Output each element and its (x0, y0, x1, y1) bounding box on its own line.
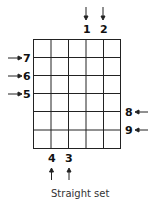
label-8: 8 (125, 106, 133, 119)
label-6: 6 (23, 70, 31, 83)
label-1: 1 (83, 23, 91, 36)
label-7: 7 (23, 52, 31, 65)
label-3: 3 (65, 152, 73, 165)
right-arrows (135, 110, 148, 132)
label-9: 9 (125, 124, 133, 137)
left-arrows (8, 56, 22, 96)
grid (34, 40, 121, 149)
bottom-arrows (50, 168, 72, 180)
label-4: 4 (48, 152, 56, 165)
label-5: 5 (23, 88, 31, 101)
top-arrows (84, 7, 105, 20)
caption: Straight set (51, 188, 109, 199)
straight-set-diagram: 1 2 7 6 5 8 9 4 3 Straight set (0, 0, 156, 203)
label-2: 2 (100, 23, 108, 36)
